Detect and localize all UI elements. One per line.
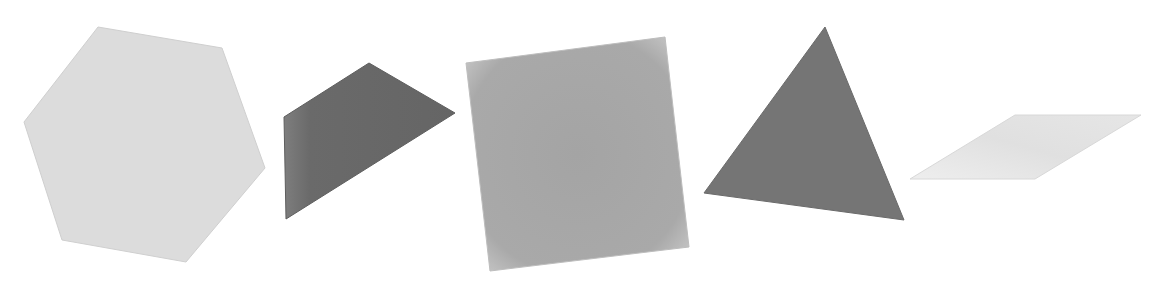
square-shape: [466, 37, 689, 271]
shapes-svg: [0, 0, 1170, 287]
quadrilateral-shape: [284, 63, 455, 219]
triangle-shape: [704, 27, 904, 220]
parallelogram-shape: [910, 115, 1141, 179]
shapes-canvas: [0, 0, 1170, 287]
hexagon-shape: [24, 27, 265, 262]
